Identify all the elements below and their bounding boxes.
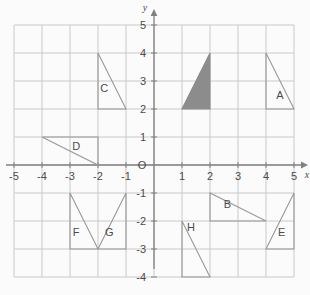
x-axis-tick-label: 1 [179,170,185,182]
x-axis-tick-label: -5 [9,170,19,182]
x-axis-tick-label: -4 [37,170,47,182]
axis-tick-labels: -5-4-3-2-1O1234554321-1-2-3-4 [9,19,297,283]
y-axis-tick-label: 1 [140,131,146,143]
y-axis-tick-label: -4 [136,271,146,283]
y-axis-tick-label: -1 [136,187,146,199]
coordinate-plot: -5-4-3-2-1O1234554321-1-2-3-4 ABCDEFGH y… [0,0,310,295]
origin-label: O [138,159,147,171]
triangle-label-g: G [105,226,114,238]
y-axis-tick-label: 2 [140,103,146,115]
triangle-label-e: E [278,226,285,238]
triangle-label-d: D [72,140,80,152]
y-axis-tick-label: 5 [140,19,146,31]
x-axis-tick-label: 4 [263,170,269,182]
y-axis-arrow-icon [151,9,158,16]
triangle-label-f: F [73,226,80,238]
y-axis-tick-label: 4 [140,47,146,59]
axes [6,9,308,269]
triangle-label-c: C [100,82,108,94]
y-axis-tick-label: -3 [136,243,146,255]
y-axis-tick-label: 3 [140,75,146,87]
triangle-label-a: A [276,89,284,101]
x-axis-tick-label: -1 [121,170,131,182]
x-axis-arrow-icon [301,162,308,169]
coordinate-grid-figure: -5-4-3-2-1O1234554321-1-2-3-4 ABCDEFGH y… [0,0,310,295]
x-axis-name: x [304,169,310,180]
x-axis-tick-label: 5 [291,170,297,182]
y-axis-name: y [142,2,148,13]
x-axis-tick-label: -2 [93,170,103,182]
x-axis-tick-label: 3 [235,170,241,182]
y-axis-tick-label: -2 [136,215,146,227]
triangle-label-h: H [187,221,195,233]
x-axis-tick-label: -3 [65,170,75,182]
x-axis-tick-label: 2 [207,170,213,182]
triangle-label-b: B [224,198,231,210]
